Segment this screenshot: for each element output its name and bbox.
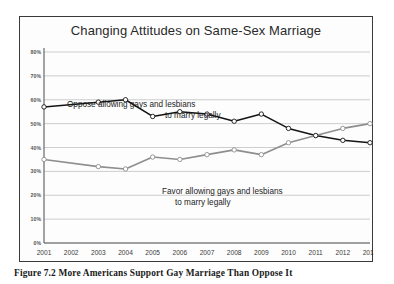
- data-point-marker: [368, 121, 372, 125]
- x-tick-label: 2013: [363, 249, 374, 256]
- annotation-oppose-line1: Oppose allowing gays and lesbians: [67, 100, 195, 109]
- gridlines-group: [44, 52, 370, 243]
- y-axis-tick-labels: 0%10%20%30%40%50%60%70%80%: [31, 49, 42, 246]
- data-point-marker: [341, 126, 345, 130]
- data-point-marker: [150, 114, 154, 118]
- data-point-marker: [42, 157, 46, 161]
- data-point-marker: [232, 148, 236, 152]
- x-tick-label: 2011: [309, 249, 324, 256]
- data-point-marker: [150, 155, 154, 159]
- x-tick-label: 2004: [118, 249, 133, 256]
- data-point-marker: [259, 152, 263, 156]
- data-point-marker: [286, 141, 290, 145]
- y-tick-label: 10%: [31, 216, 42, 222]
- x-tick-label: 2005: [145, 249, 160, 256]
- y-tick-label: 0%: [34, 240, 42, 246]
- y-tick-label: 70%: [31, 73, 42, 79]
- data-point-marker: [341, 138, 345, 142]
- data-point-marker: [178, 157, 182, 161]
- x-tick-label: 2002: [64, 249, 79, 256]
- annotation-favor-line2: to marry legally: [175, 198, 231, 207]
- x-tick-label: 2012: [335, 249, 350, 256]
- data-point-marker: [205, 152, 209, 156]
- line-chart: 0%10%20%30%40%50%60%70%80% 2001200220032…: [20, 17, 374, 263]
- x-tick-label: 2009: [254, 249, 269, 256]
- x-tick-label: 2003: [91, 249, 106, 256]
- x-axis-tick-labels: 2001200220032004200520062007200820092010…: [37, 249, 374, 256]
- annotation-favor-line1: Favor allowing gays and lesbians: [162, 187, 283, 196]
- y-tick-label: 20%: [31, 192, 42, 198]
- data-point-marker: [368, 141, 372, 145]
- series-line-favor: [44, 124, 370, 169]
- data-point-marker: [123, 167, 127, 171]
- x-tick-label: 2001: [37, 249, 52, 256]
- figure-box: Changing Attitudes on Same-Sex Marriage …: [19, 16, 373, 262]
- data-point-marker: [286, 126, 290, 130]
- figure-caption: Figure 7.2 More Americans Support Gay Ma…: [14, 268, 384, 278]
- x-tick-label: 2008: [227, 249, 242, 256]
- data-point-marker: [232, 119, 236, 123]
- y-tick-label: 40%: [31, 145, 42, 151]
- series-markers-favor: [42, 121, 372, 171]
- data-point-marker: [259, 112, 263, 116]
- y-tick-label: 30%: [31, 168, 42, 174]
- data-point-marker: [313, 133, 317, 137]
- x-tick-label: 2007: [200, 249, 215, 256]
- annotation-oppose-line2: to marry legally: [165, 111, 221, 120]
- y-tick-label: 80%: [31, 49, 42, 55]
- data-point-marker: [42, 105, 46, 109]
- y-tick-label: 60%: [31, 97, 42, 103]
- x-tick-label: 2010: [281, 249, 296, 256]
- data-point-marker: [96, 164, 100, 168]
- x-tick-label: 2006: [172, 249, 187, 256]
- y-tick-label: 50%: [31, 121, 42, 127]
